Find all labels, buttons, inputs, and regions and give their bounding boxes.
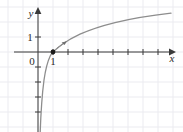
y-axis-label: y (28, 7, 34, 19)
graph-canvas: x y 0 1 1 (0, 0, 183, 132)
x-intercept-point (51, 50, 56, 55)
y-tick-label-1: 1 (27, 31, 33, 43)
origin-label: 0 (29, 55, 35, 67)
x-axis-label: x (169, 52, 175, 64)
x-tick-label-1: 1 (50, 55, 56, 67)
logarithmic-function-graph: x y 0 1 1 (0, 0, 183, 132)
